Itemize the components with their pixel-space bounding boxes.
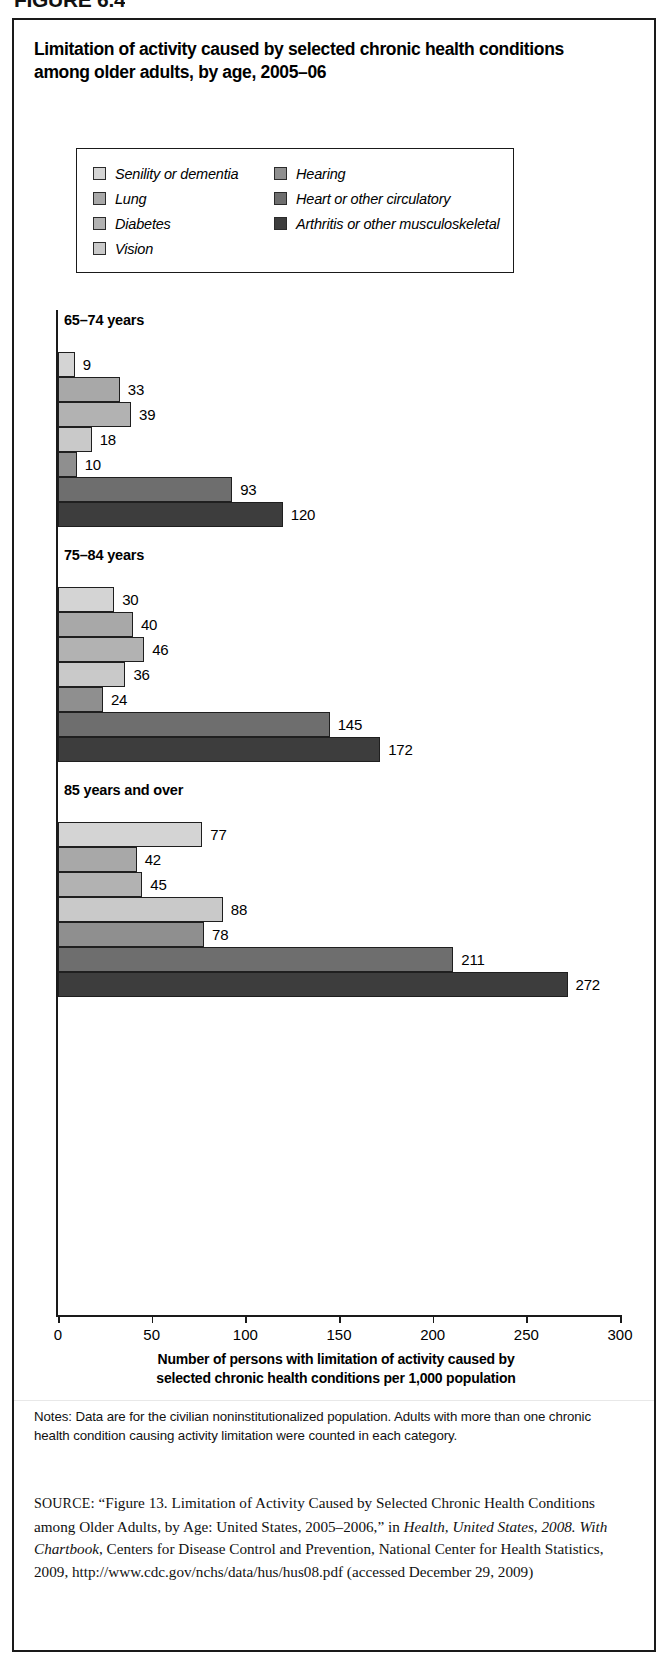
legend-item[interactable]: Heart or other circulatory [274,186,500,211]
bar[interactable] [58,452,77,477]
bar-row[interactable]: 9 [58,352,618,377]
legend-item[interactable]: Arthritis or other musculoskeletal [274,211,500,236]
bar[interactable] [58,637,144,662]
bar-value-label: 78 [212,926,228,943]
bar-row[interactable]: 45 [58,872,618,897]
bar[interactable] [58,377,120,402]
bar[interactable] [58,402,131,427]
bar-value-label: 211 [461,951,484,968]
bar-group-label: 75–84 years [64,547,144,563]
x-axis-tick [245,1315,247,1323]
legend-column-left: Senility or dementiaLungDiabetesVision [93,161,238,261]
x-axis-tick-label: 300 [607,1326,632,1343]
bar-row[interactable]: 211 [58,947,618,972]
legend-item[interactable]: Senility or dementia [93,161,238,186]
legend-swatch-icon [274,167,287,180]
x-axis-tick [152,1315,154,1323]
bar[interactable] [58,737,380,762]
bar[interactable] [58,847,137,872]
bar-row[interactable]: 272 [58,972,618,997]
legend-label: Lung [115,191,146,207]
bar[interactable] [58,897,223,922]
x-axis-tick [58,1315,60,1323]
legend-label: Heart or other circulatory [296,191,450,207]
bar-value-label: 40 [141,616,157,633]
bar[interactable] [58,612,133,637]
bar-row[interactable]: 88 [58,897,618,922]
x-axis-tick-label: 50 [143,1326,160,1343]
bar[interactable] [58,427,92,452]
x-axis-title-line2: selected chronic health conditions per 1… [34,1369,638,1388]
bar[interactable] [58,822,202,847]
bar-row[interactable]: 77 [58,822,618,847]
bar-row[interactable]: 18 [58,427,618,452]
legend-item[interactable]: Lung [93,186,238,211]
bar-value-label: 9 [83,356,91,373]
bar-row[interactable]: 40 [58,612,618,637]
bar[interactable] [58,587,114,612]
x-axis-tick-label: 100 [233,1326,258,1343]
bar-value-label: 88 [231,901,247,918]
legend-label: Hearing [296,166,345,182]
bar[interactable] [58,922,204,947]
bar-row[interactable]: 120 [58,502,618,527]
bar-value-label: 272 [576,976,600,993]
bar-row[interactable]: 78 [58,922,618,947]
source-prefix: SOURCE [34,1496,90,1511]
bar-row[interactable]: 24 [58,687,618,712]
bar-group-label: 85 years and over [64,782,183,798]
bar-row[interactable]: 33 [58,377,618,402]
bar-row[interactable]: 46 [58,637,618,662]
chart-legend: Senility or dementiaLungDiabetesVision H… [76,148,514,273]
bar[interactable] [58,972,568,997]
bar-row[interactable]: 10 [58,452,618,477]
bar-value-label: 18 [100,431,116,448]
legend-swatch-icon [93,242,106,255]
legend-swatch-icon [93,217,106,230]
x-axis-title: Number of persons with limitation of act… [34,1350,638,1388]
notes-divider [14,1400,654,1401]
source-text: SOURCE: “Figure 13. Limitation of Activi… [34,1492,634,1583]
x-axis-title-line1: Number of persons with limitation of act… [34,1350,638,1369]
figure-caption: FIGURE 6.4 [14,0,125,14]
legend-swatch-icon [93,167,106,180]
bar-row[interactable]: 39 [58,402,618,427]
bar[interactable] [58,712,330,737]
bar-row[interactable]: 172 [58,737,618,762]
bar[interactable] [58,947,453,972]
bar-value-label: 46 [152,641,168,658]
legend-item[interactable]: Vision [93,236,238,261]
bar[interactable] [58,477,232,502]
x-axis-tick [339,1315,341,1323]
bar-value-label: 145 [338,716,362,733]
x-axis-tick-label: 150 [326,1326,351,1343]
legend-label: Diabetes [115,216,171,232]
legend-label: Vision [115,241,153,257]
bar-row[interactable]: 93 [58,477,618,502]
bar-row[interactable]: 36 [58,662,618,687]
bar[interactable] [58,687,103,712]
legend-label: Arthritis or other musculoskeletal [296,216,500,232]
x-axis-tick-label: 0 [54,1326,62,1343]
x-axis-tick [526,1315,528,1323]
bar-value-label: 39 [139,406,155,423]
legend-item[interactable]: Diabetes [93,211,238,236]
bar[interactable] [58,662,125,687]
bar-row[interactable]: 30 [58,587,618,612]
x-axis-tick-label: 250 [514,1326,539,1343]
legend-column-right: HearingHeart or other circulatoryArthrit… [274,161,500,236]
bar[interactable] [58,352,75,377]
x-axis-tick [620,1315,622,1323]
legend-item[interactable]: Hearing [274,161,500,186]
bar[interactable] [58,872,142,897]
bar-group-label: 65–74 years [64,312,144,328]
legend-swatch-icon [274,192,287,205]
bar[interactable] [58,502,283,527]
bar-row[interactable]: 42 [58,847,618,872]
legend-label: Senility or dementia [115,166,238,182]
bar-value-label: 36 [133,666,149,683]
chart-title: Limitation of activity caused by selecte… [34,38,594,84]
bar-row[interactable]: 145 [58,712,618,737]
x-axis-tick-label: 200 [420,1326,445,1343]
bar-value-label: 42 [145,851,161,868]
